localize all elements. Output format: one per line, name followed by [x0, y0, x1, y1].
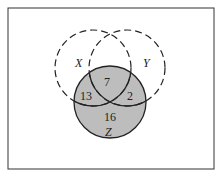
region-xz: 13	[80, 89, 92, 103]
label-y: Y	[143, 56, 151, 70]
venn-diagram: X Y 7 13 2 16 Z	[0, 0, 223, 179]
label-x: X	[74, 56, 83, 70]
region-xyz: 7	[104, 75, 110, 89]
region-yz: 2	[127, 89, 133, 103]
label-z: Z	[105, 125, 112, 139]
region-z: 16	[104, 110, 116, 124]
